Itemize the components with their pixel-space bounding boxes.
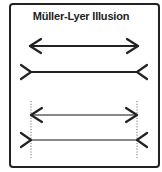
guide-lines xyxy=(31,101,137,158)
arrow-fins-black xyxy=(21,65,147,79)
arrow-outward-comparison xyxy=(31,108,137,122)
arrow-fins-comparison xyxy=(21,133,147,147)
arrow-outward-black xyxy=(30,39,138,53)
illusion-figures xyxy=(0,0,162,172)
